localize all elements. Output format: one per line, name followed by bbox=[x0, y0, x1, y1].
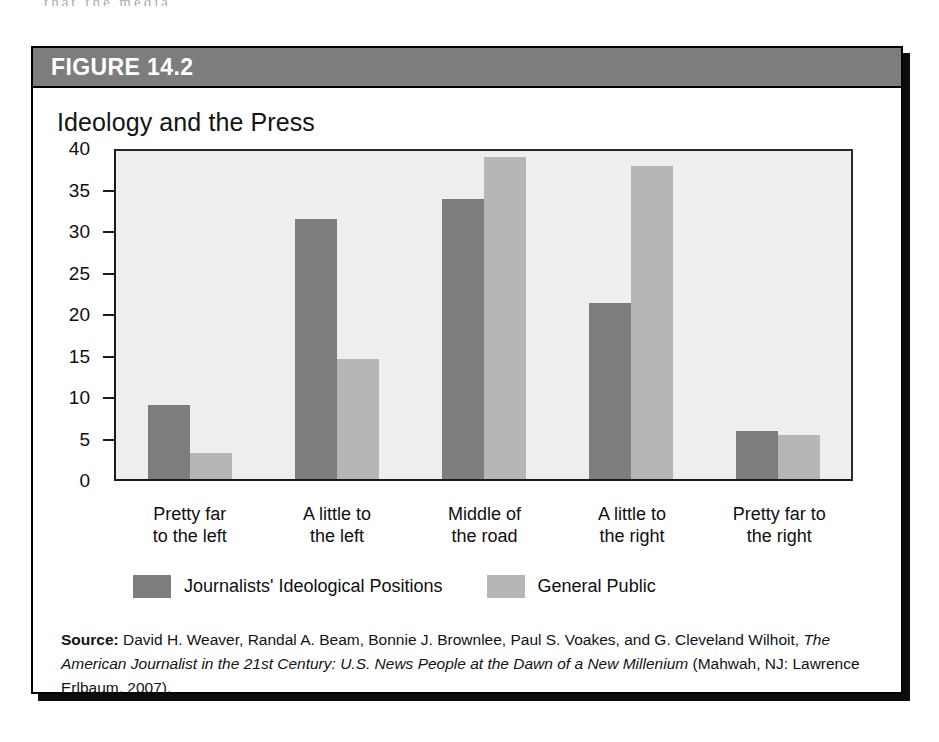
x-axis-label-line: Middle of bbox=[411, 504, 558, 526]
x-axis-label-line: A little to bbox=[263, 504, 410, 526]
x-axis-label-line: the right bbox=[558, 526, 705, 548]
chart-title: Ideology and the Press bbox=[57, 108, 879, 137]
page-bleed-text: that the media bbox=[44, 0, 464, 6]
y-axis-tick-mark bbox=[103, 397, 114, 399]
bar-0-1 bbox=[295, 219, 337, 479]
x-axis-label-line: the left bbox=[263, 526, 410, 548]
x-axis-label: Pretty far tothe right bbox=[706, 504, 853, 547]
y-axis-tick-mark bbox=[103, 231, 114, 233]
y-axis-tick-label: 35 bbox=[69, 180, 90, 202]
y-axis-tick-label: 10 bbox=[69, 387, 90, 409]
bar-0-0 bbox=[148, 405, 190, 479]
x-axis-label-line: the right bbox=[706, 526, 853, 548]
y-axis-tick-label: 30 bbox=[69, 221, 90, 243]
y-axis-tick-label: 20 bbox=[69, 304, 90, 326]
x-axis-label-line: the road bbox=[411, 526, 558, 548]
bar-0-4 bbox=[736, 431, 778, 479]
source-authors: David H. Weaver, Randal A. Beam, Bonnie … bbox=[119, 631, 804, 648]
legend-label: General Public bbox=[538, 576, 656, 597]
chart-legend: Journalists' Ideological PositionsGenera… bbox=[133, 575, 879, 598]
y-axis-tick-label: 5 bbox=[79, 429, 90, 451]
figure-body: Ideology and the Press 0510152025303540 … bbox=[33, 88, 901, 700]
chart-area: 0510152025303540 bbox=[63, 149, 879, 497]
y-axis-tick-label: 25 bbox=[69, 263, 90, 285]
bar-1-2 bbox=[484, 157, 526, 479]
bar-group bbox=[736, 151, 820, 479]
bar-1-4 bbox=[778, 435, 820, 479]
figure-box: FIGURE 14.2 Ideology and the Press 05101… bbox=[31, 46, 903, 694]
bar-1-3 bbox=[631, 166, 673, 480]
x-axis-label: Middle ofthe road bbox=[411, 504, 558, 547]
x-axis-labels: Pretty farto the leftA little tothe left… bbox=[116, 504, 853, 547]
bar-0-3 bbox=[589, 303, 631, 479]
bar-group bbox=[295, 151, 379, 479]
y-axis-tick-label: 15 bbox=[69, 346, 90, 368]
y-axis: 0510152025303540 bbox=[63, 149, 103, 481]
figure-number-label: FIGURE 14.2 bbox=[51, 54, 193, 81]
legend-swatch-icon bbox=[487, 575, 525, 598]
y-axis-tick-mark bbox=[103, 439, 114, 441]
x-axis-label: A little tothe left bbox=[263, 504, 410, 547]
x-axis-label: Pretty farto the left bbox=[116, 504, 263, 547]
x-axis-label-line: Pretty far bbox=[116, 504, 263, 526]
bar-group bbox=[442, 151, 526, 479]
source-note: Source: David H. Weaver, Randal A. Beam,… bbox=[61, 628, 873, 700]
y-axis-tick-mark bbox=[103, 314, 114, 316]
plot-area bbox=[116, 149, 853, 481]
bar-0-2 bbox=[442, 199, 484, 480]
bar-1-1 bbox=[337, 359, 379, 479]
x-axis-label: A little tothe right bbox=[558, 504, 705, 547]
x-axis-label-line: Pretty far to bbox=[706, 504, 853, 526]
bar-group bbox=[589, 151, 673, 479]
y-axis-tick-label: 40 bbox=[69, 138, 90, 160]
figure-header-bar: FIGURE 14.2 bbox=[33, 48, 901, 88]
legend-entry: General Public bbox=[487, 575, 656, 598]
y-axis-tick-label: 0 bbox=[79, 470, 90, 492]
legend-entry: Journalists' Ideological Positions bbox=[133, 575, 443, 598]
bar-group bbox=[148, 151, 232, 479]
y-axis-tick-mark bbox=[103, 190, 114, 192]
y-axis-tick-mark bbox=[103, 273, 114, 275]
legend-label: Journalists' Ideological Positions bbox=[184, 576, 443, 597]
x-axis-label-line: A little to bbox=[558, 504, 705, 526]
legend-swatch-icon bbox=[133, 575, 171, 598]
bar-1-0 bbox=[190, 453, 232, 479]
x-axis-label-line: to the left bbox=[116, 526, 263, 548]
y-axis-tick-mark bbox=[103, 356, 114, 358]
source-label: Source: bbox=[61, 631, 119, 648]
